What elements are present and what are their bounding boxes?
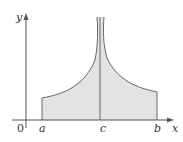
c-label: c	[100, 122, 106, 135]
y-axis-arrow-icon	[24, 13, 29, 20]
origin-label: 0	[17, 122, 24, 135]
improper-integral-diagram: y x 0 a c b	[0, 0, 183, 142]
shaded-region-right	[100, 17, 157, 120]
a-label: a	[39, 122, 46, 135]
x-axis-label: x	[172, 122, 179, 135]
y-axis-label: y	[15, 11, 23, 24]
b-label: b	[154, 122, 161, 135]
